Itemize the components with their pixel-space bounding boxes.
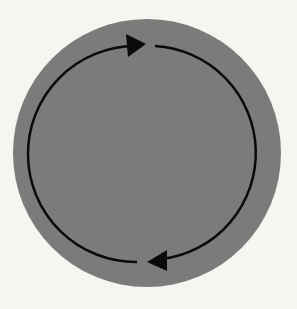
gray-disc — [13, 19, 281, 287]
cycle-diagram — [0, 0, 297, 309]
cycle-diagram-graphic — [0, 0, 297, 309]
